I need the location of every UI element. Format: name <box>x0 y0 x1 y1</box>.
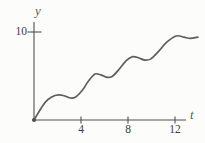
function-graph-figure: y t 10 4 8 12 <box>0 0 205 143</box>
x-tick-label-12: 12 <box>169 123 181 136</box>
origin-point <box>32 118 36 122</box>
x-tick-label-8: 8 <box>125 123 131 136</box>
x-axis-label: t <box>190 108 194 121</box>
plot-canvas <box>0 0 205 143</box>
curve-path <box>34 36 198 120</box>
y-tick-label-10: 10 <box>8 25 27 38</box>
x-tick-label-4: 4 <box>78 123 84 136</box>
y-axis-label: y <box>35 4 41 17</box>
